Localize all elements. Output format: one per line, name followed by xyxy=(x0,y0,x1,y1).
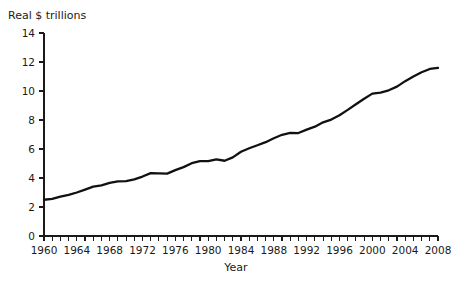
x-tick-label: 2008 xyxy=(425,244,452,256)
x-tick-group: 1960196419681972197619801984198819921996… xyxy=(31,236,452,256)
x-tick-label: 1996 xyxy=(326,244,353,256)
x-tick-label: 1988 xyxy=(260,244,287,256)
x-axis-label: Year xyxy=(223,261,248,274)
x-tick-label: 1980 xyxy=(195,244,222,256)
x-tick-label: 2004 xyxy=(392,244,419,256)
x-tick-label: 1964 xyxy=(63,244,90,256)
y-tick-label: 4 xyxy=(28,172,35,184)
data-series-line xyxy=(44,68,438,200)
line-chart: Real $ trillions 02468101214 19601964196… xyxy=(0,0,473,289)
y-tick-label: 6 xyxy=(28,143,35,155)
y-tick-label: 2 xyxy=(28,201,35,213)
y-tick-label: 8 xyxy=(28,114,35,126)
x-tick-label: 2000 xyxy=(359,244,386,256)
x-tick-label: 1992 xyxy=(293,244,320,256)
y-tick-label: 12 xyxy=(22,56,35,68)
chart-svg: Real $ trillions 02468101214 19601964196… xyxy=(0,0,473,289)
chart-page: Real $ trillions 02468101214 19601964196… xyxy=(0,0,473,289)
y-tick-label: 0 xyxy=(28,230,35,242)
y-tick-label: 10 xyxy=(22,85,35,97)
x-tick-label: 1960 xyxy=(31,244,58,256)
y-tick-group: 02468101214 xyxy=(22,27,44,242)
x-tick-label: 1972 xyxy=(129,244,156,256)
x-tick-label: 1984 xyxy=(228,244,255,256)
y-axis-label: Real $ trillions xyxy=(8,9,86,22)
x-tick-label: 1968 xyxy=(96,244,123,256)
x-tick-label: 1976 xyxy=(162,244,189,256)
y-tick-label: 14 xyxy=(22,27,36,39)
y-axis-title-group: Real $ trillions xyxy=(8,9,86,22)
